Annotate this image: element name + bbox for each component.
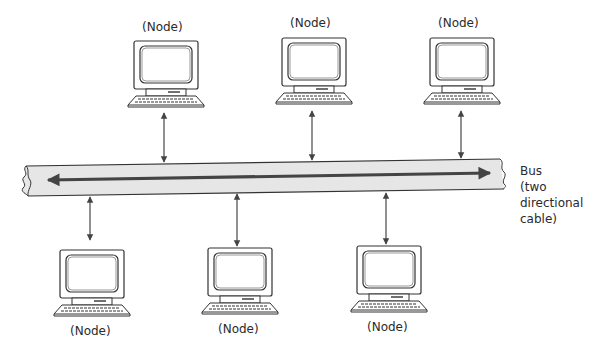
node-label-bottom-1: (Node)	[218, 322, 259, 336]
bus-label-line: cable)	[520, 211, 583, 227]
computer-icon	[202, 248, 278, 314]
bus-label-line: directional	[520, 195, 583, 211]
node-label-bottom-0: (Node)	[70, 324, 111, 338]
node-label-top-1: (Node)	[290, 16, 331, 30]
computer-icon	[424, 38, 500, 104]
computer-icon	[128, 41, 204, 107]
bus-cable	[22, 159, 505, 196]
computer-icon	[276, 38, 352, 104]
computer-icon	[351, 246, 427, 312]
bus-topology-diagram	[0, 0, 603, 358]
bus-label-line: Bus	[520, 163, 583, 179]
node-label-top-0: (Node)	[142, 20, 183, 34]
node-label-bottom-2: (Node)	[367, 320, 408, 334]
bus-label: Bus (two directional cable)	[520, 163, 583, 227]
bus-label-line: (two	[520, 179, 583, 195]
node-label-top-2: (Node)	[438, 16, 479, 30]
computer-icon	[54, 250, 130, 316]
